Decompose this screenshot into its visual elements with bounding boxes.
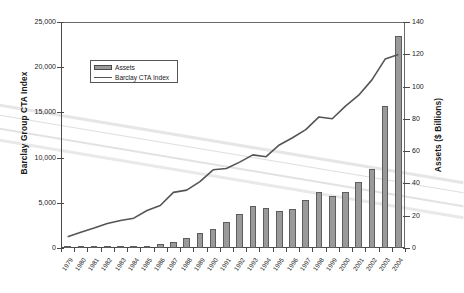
y-left-tickmark xyxy=(57,22,64,23)
legend-bar-swatch-icon xyxy=(94,65,112,70)
x-tickmark xyxy=(167,248,168,252)
legend-item-barclay-cta-index: Barclay CTA Index xyxy=(94,73,174,82)
x-tickmark xyxy=(246,248,247,252)
x-tick-label: 2000 xyxy=(338,256,352,272)
y-left-tick-label: 0 xyxy=(18,244,56,251)
y-right-tick-label: 80 xyxy=(412,115,438,122)
x-tickmark xyxy=(61,248,62,252)
x-tickmark xyxy=(207,248,208,252)
y-right-tickmark xyxy=(403,216,410,217)
x-tick-label: 1991 xyxy=(219,256,233,272)
x-tick-label: 1996 xyxy=(285,256,299,272)
x-tick-label: 1983 xyxy=(113,256,127,272)
bar xyxy=(302,200,309,248)
y-right-tick-label: 100 xyxy=(412,83,438,90)
x-tickmark xyxy=(365,248,366,252)
x-tickmark xyxy=(101,248,102,252)
x-tickmark xyxy=(312,248,313,252)
x-tickmark xyxy=(273,248,274,252)
bar xyxy=(144,246,151,248)
bar xyxy=(382,106,389,248)
bar xyxy=(329,196,336,248)
bar xyxy=(130,246,137,248)
x-tick-label: 1986 xyxy=(152,256,166,272)
y-right-tick-label: 20 xyxy=(412,212,438,219)
x-tickmark xyxy=(299,248,300,252)
y-right-tick-label: 60 xyxy=(412,147,438,154)
bar xyxy=(355,182,362,248)
x-tick-label: 2001 xyxy=(351,256,365,272)
y-right-tickmark xyxy=(403,151,410,152)
bar xyxy=(263,208,270,248)
bar xyxy=(91,246,98,248)
y-axis-right-title: Assets ($ Billions) xyxy=(433,75,443,195)
bar xyxy=(236,214,243,248)
bar xyxy=(369,169,376,248)
y-right-tick-label: 140 xyxy=(412,18,438,25)
y-left-tickmark xyxy=(57,112,64,113)
x-tickmark xyxy=(392,248,393,252)
y-left-tick-label: 15,000 xyxy=(18,108,56,115)
x-tick-label: 1987 xyxy=(166,256,180,272)
y-right-tickmark xyxy=(403,87,410,88)
x-tick-label: 1999 xyxy=(324,256,338,272)
x-tickmark xyxy=(127,248,128,252)
y-right-tickmark xyxy=(403,54,410,55)
x-tick-label: 1981 xyxy=(86,256,100,272)
y-left-tickmark xyxy=(57,203,64,204)
x-tick-label: 1982 xyxy=(100,256,114,272)
x-tickmark xyxy=(87,248,88,252)
x-tick-label: 1985 xyxy=(139,256,153,272)
legend-line-swatch-icon xyxy=(94,77,112,78)
x-tick-label: 2003 xyxy=(377,256,391,272)
x-tick-label: 1997 xyxy=(298,256,312,272)
x-tickmark xyxy=(405,248,406,252)
x-tickmark xyxy=(286,248,287,252)
bar xyxy=(183,238,190,248)
x-tickmark xyxy=(193,248,194,252)
y-left-tick-label: 5,000 xyxy=(18,199,56,206)
chart-legend: Assets Barclay CTA Index xyxy=(90,60,178,83)
x-tickmark xyxy=(352,248,353,252)
bar xyxy=(289,209,296,248)
x-tick-label: 2002 xyxy=(364,256,378,272)
bar xyxy=(210,229,217,248)
x-tick-label: 2004 xyxy=(391,256,405,272)
x-tickmark xyxy=(233,248,234,252)
bar xyxy=(197,233,204,248)
y-left-tickmark xyxy=(57,67,64,68)
plot-area xyxy=(61,22,405,248)
bar xyxy=(78,246,85,248)
x-tick-label: 1990 xyxy=(205,256,219,272)
x-tick-label: 1994 xyxy=(258,256,272,272)
bar xyxy=(250,206,257,248)
x-tick-label: 1979 xyxy=(60,256,74,272)
bar xyxy=(276,211,283,248)
x-tick-label: 1992 xyxy=(232,256,246,272)
legend-label-barclay-cta-index: Barclay CTA Index xyxy=(115,74,169,82)
y-right-tick-label: 0 xyxy=(412,244,438,251)
y-right-tickmark xyxy=(403,22,410,23)
y-right-tick-label: 120 xyxy=(412,50,438,57)
x-tickmark xyxy=(339,248,340,252)
x-tickmark xyxy=(154,248,155,252)
x-tickmark xyxy=(379,248,380,252)
x-tickmark xyxy=(220,248,221,252)
y-axis-left-title: Barclay Group CTA Index xyxy=(19,53,29,193)
bar xyxy=(170,242,177,248)
x-tick-label: 1988 xyxy=(179,256,193,272)
y-left-tickmark xyxy=(57,158,64,159)
x-tick-label: 1980 xyxy=(73,256,87,272)
y-left-tick-label: 25,000 xyxy=(18,18,56,25)
x-tickmark xyxy=(74,248,75,252)
bar xyxy=(316,192,323,248)
x-tick-label: 1984 xyxy=(126,256,140,272)
y-right-tickmark xyxy=(403,183,410,184)
x-tickmark xyxy=(326,248,327,252)
bar xyxy=(64,246,71,248)
y-right-tick-label: 40 xyxy=(412,179,438,186)
y-left-tick-label: 20,000 xyxy=(18,63,56,70)
bar xyxy=(223,222,230,248)
x-tick-label: 1989 xyxy=(192,256,206,272)
